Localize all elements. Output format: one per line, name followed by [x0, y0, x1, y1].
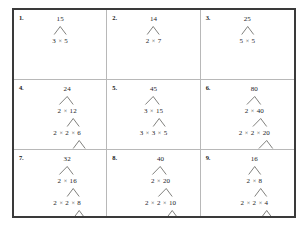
factor-value: 40: [257, 105, 264, 118]
branch-connectors: [215, 96, 294, 105]
factor-tree-worksheet: 1.153×52.142×73.255×54.242×122×2×62×2×2×…: [12, 8, 296, 218]
factor-row: 2×7: [146, 35, 162, 48]
factor-row: 2×16: [58, 175, 77, 188]
branch-connectors: [107, 26, 199, 35]
multiplication-sign: ×: [248, 105, 256, 118]
problem-cell: 7.322×162×2×82×2×2×42×2×2×2×2: [14, 150, 107, 216]
factor-tree: 153×5: [14, 13, 106, 48]
factor-value: 10: [169, 197, 176, 210]
multiplication-sign: ×: [56, 35, 64, 48]
factor-row: 2×2×4: [241, 197, 269, 210]
branch-connectors: [121, 188, 199, 197]
factor-row: 2×2×6: [53, 127, 81, 140]
branch-connectors: [215, 118, 294, 127]
problem-grid: 1.153×52.142×73.255×54.242×122×2×62×2×2×…: [14, 10, 294, 216]
factor-row: 2×2×8: [53, 197, 81, 210]
factor-tree: 453×153×3×5: [107, 83, 199, 140]
factor-row: 2×20: [151, 175, 170, 188]
factor-value: 5: [252, 35, 256, 48]
multiplication-sign: ×: [57, 127, 65, 140]
branch-connectors: [121, 210, 199, 216]
branch-connectors: [215, 188, 294, 197]
factor-value: 4: [265, 197, 269, 210]
problem-cell: 1.153×5: [14, 10, 107, 80]
tree-root-value: 24: [64, 83, 71, 96]
problem-cell: 4.242×122×2×62×2×2×2: [14, 80, 107, 150]
branch-connectors: [28, 118, 106, 127]
factor-row: 45: [150, 83, 157, 96]
multiplication-sign: ×: [155, 127, 163, 140]
branch-connectors: [28, 96, 106, 105]
problem-cell: 2.142×7: [107, 10, 200, 80]
multiplication-sign: ×: [149, 197, 157, 210]
factor-tree: 242×122×2×62×2×2×2: [14, 83, 106, 150]
factor-row: 3×15: [144, 105, 163, 118]
factor-row: 2×40: [245, 105, 264, 118]
branch-connectors: [28, 166, 106, 175]
problem-cell: 3.255×5: [201, 10, 294, 80]
factor-row: 3×3×5: [140, 127, 168, 140]
factor-value: 20: [163, 175, 170, 188]
problem-cell: 8.402×202×2×102×2×2×5: [107, 150, 200, 216]
multiplication-sign: ×: [244, 197, 252, 210]
multiplication-sign: ×: [143, 127, 151, 140]
tree-root-value: 16: [251, 153, 258, 166]
factor-tree: 322×162×2×82×2×2×42×2×2×2×2: [14, 153, 106, 216]
factor-value: 7: [158, 35, 162, 48]
multiplication-sign: ×: [254, 127, 262, 140]
factor-tree: 255×5: [201, 13, 294, 48]
factor-row: 80: [251, 83, 258, 96]
factor-row: 16: [251, 153, 258, 166]
branch-connectors: [215, 210, 294, 216]
problem-cell: 6.802×402×2×202×2×2×102×2×2×2×5: [201, 80, 294, 150]
factor-value: 8: [77, 197, 81, 210]
multiplication-sign: ×: [161, 197, 169, 210]
factor-value: 20: [263, 127, 270, 140]
branch-connectors: [121, 166, 199, 175]
branch-connectors: [28, 188, 106, 197]
multiplication-sign: ×: [155, 175, 163, 188]
factor-row: 15: [57, 13, 64, 26]
factor-row: 40: [157, 153, 164, 166]
multiplication-sign: ×: [256, 197, 264, 210]
tree-root-value: 14: [150, 13, 157, 26]
factor-value: 12: [70, 105, 77, 118]
branch-connectors: [28, 140, 106, 149]
multiplication-sign: ×: [57, 197, 65, 210]
multiplication-sign: ×: [149, 35, 157, 48]
factor-tree: 142×7: [107, 13, 199, 48]
multiplication-sign: ×: [69, 127, 77, 140]
factor-row: 3×5: [52, 35, 68, 48]
factor-value: 8: [259, 175, 263, 188]
branch-connectors: [107, 118, 199, 127]
branch-connectors: [215, 140, 294, 149]
factor-value: 5: [64, 35, 68, 48]
factor-tree: 162×82×2×42×2×2×2: [201, 153, 294, 216]
multiplication-sign: ×: [69, 197, 77, 210]
tree-root-value: 25: [244, 13, 251, 26]
tree-root-value: 15: [57, 13, 64, 26]
factor-row: 25: [244, 13, 251, 26]
tree-root-value: 45: [150, 83, 157, 96]
multiplication-sign: ×: [243, 35, 251, 48]
multiplication-sign: ×: [61, 105, 69, 118]
problem-cell: 9.162×82×2×42×2×2×2: [201, 150, 294, 216]
factor-row: 24: [64, 83, 71, 96]
branch-connectors: [107, 96, 199, 105]
multiplication-sign: ×: [61, 175, 69, 188]
problem-cell: 5.453×153×3×5: [107, 80, 200, 150]
tree-root-value: 32: [64, 153, 71, 166]
factor-row: 32: [64, 153, 71, 166]
factor-value: 5: [164, 127, 168, 140]
multiplication-sign: ×: [242, 127, 250, 140]
factor-row: 14: [150, 13, 157, 26]
tree-root-value: 80: [251, 83, 258, 96]
tree-root-value: 40: [157, 153, 164, 166]
branch-connectors: [14, 26, 106, 35]
branch-connectors: [201, 26, 294, 35]
factor-row: 2×8: [247, 175, 263, 188]
multiplication-sign: ×: [148, 105, 156, 118]
factor-tree: 402×202×2×102×2×2×5: [107, 153, 199, 216]
branch-connectors: [215, 166, 294, 175]
multiplication-sign: ×: [250, 175, 258, 188]
